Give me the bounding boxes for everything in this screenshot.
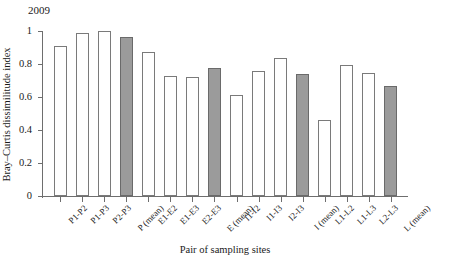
bar-slot [380, 32, 402, 196]
bar [384, 86, 397, 196]
x-axis-tick [214, 197, 215, 202]
bar-slot [248, 32, 270, 196]
x-tick-slot [292, 197, 314, 202]
bar-chart-figure: 2009 Bray–Curtis dissimilitude index 00.… [0, 0, 449, 263]
bar [340, 65, 353, 196]
plot-area: 00.20.40.60.81 [42, 32, 408, 197]
x-tick-slot [270, 197, 292, 202]
x-axis-tick [60, 197, 61, 202]
bar [252, 71, 265, 196]
x-tick-slot [248, 197, 270, 202]
x-label-slot: P1-P3 [71, 203, 93, 239]
chart-title: 2009 [28, 4, 50, 16]
x-tick-label-container: P1-P2P1-P3P2-P3P (mean)E1-E2E1-E3E2-E3E … [43, 203, 409, 239]
bar-series [43, 32, 408, 196]
x-label-slot: L2-L3 [359, 203, 381, 239]
bar-slot [137, 32, 159, 196]
bar [98, 31, 111, 196]
y-axis-tick-label: 0.4 [19, 123, 32, 136]
bar [76, 33, 89, 196]
bar [54, 46, 67, 196]
x-tick-container [43, 197, 409, 202]
x-axis-tick [369, 197, 370, 202]
x-axis-tick [237, 197, 238, 202]
bar [274, 58, 287, 196]
x-tick-slot [226, 197, 248, 202]
x-tick-slot [315, 197, 337, 202]
x-tick-slot [49, 197, 71, 202]
bar [362, 73, 375, 196]
x-tick-slot [160, 197, 182, 202]
bar [208, 68, 221, 196]
x-axis-tick [126, 197, 127, 202]
x-axis-tick [170, 197, 171, 202]
x-axis-tick-label: L (mean) [402, 203, 432, 233]
x-label-slot: I (mean) [292, 203, 314, 239]
bar-slot [270, 32, 292, 196]
x-tick-slot [182, 197, 204, 202]
x-label-slot: E1-E2 [138, 203, 160, 239]
bar-slot [226, 32, 248, 196]
x-label-slot: L1-L2 [315, 203, 337, 239]
x-axis-title: Pair of sampling sites [42, 243, 408, 256]
x-tick-slot [115, 197, 137, 202]
x-axis-tick [347, 197, 348, 202]
x-label-slot: L (mean) [381, 203, 403, 239]
x-axis-tick [104, 197, 105, 202]
bar [142, 52, 155, 196]
x-axis-tick [148, 197, 149, 202]
x-label-slot: P2-P3 [93, 203, 115, 239]
x-tick-slot [381, 197, 403, 202]
x-axis-tick [325, 197, 326, 202]
x-label-slot: P (mean) [115, 203, 137, 239]
bar-slot [181, 32, 203, 196]
x-label-slot: E (mean) [204, 203, 226, 239]
x-axis-tick [82, 197, 83, 202]
x-tick-slot [359, 197, 381, 202]
x-tick-slot [337, 197, 359, 202]
bar-slot [115, 32, 137, 196]
x-tick-slot [138, 197, 160, 202]
bar [230, 95, 243, 196]
y-axis-tick-label: 0.8 [19, 57, 32, 70]
bar-slot [292, 32, 314, 196]
bar-slot [93, 32, 115, 196]
bar-slot [358, 32, 380, 196]
bar-slot [203, 32, 225, 196]
bar-slot [49, 32, 71, 196]
x-label-slot: L1-L3 [337, 203, 359, 239]
x-axis-tick [259, 197, 260, 202]
x-label-slot: E2-E3 [182, 203, 204, 239]
bar [186, 77, 199, 196]
bar [120, 37, 133, 196]
x-label-slot: P1-P2 [49, 203, 71, 239]
bar-slot [314, 32, 336, 196]
x-tick-slot [93, 197, 115, 202]
y-axis-tick-label: 0.2 [19, 156, 32, 169]
x-axis-tick [391, 197, 392, 202]
bar-slot [159, 32, 181, 196]
x-label-slot: E1-E3 [160, 203, 182, 239]
bar [296, 74, 309, 196]
x-tick-slot [71, 197, 93, 202]
x-label-slot: I1-I3 [248, 203, 270, 239]
y-axis-tick-label: 0.6 [19, 90, 32, 103]
x-label-slot: I2-I3 [270, 203, 292, 239]
bar [164, 76, 177, 196]
x-label-slot: I1-I2 [226, 203, 248, 239]
x-axis-tick [281, 197, 282, 202]
x-axis-tick [303, 197, 304, 202]
x-axis-tick [192, 197, 193, 202]
x-tick-slot [204, 197, 226, 202]
bar-slot [336, 32, 358, 196]
y-axis-tick-label: 0 [27, 189, 32, 202]
y-axis-tick-label: 1 [27, 24, 32, 37]
bar-slot [71, 32, 93, 196]
y-axis-title: Bray–Curtis dissimilitude index [0, 32, 14, 197]
bar [318, 120, 331, 196]
